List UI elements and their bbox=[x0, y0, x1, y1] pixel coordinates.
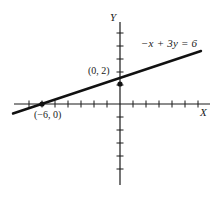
point-label-x-intercept: (−6, 0) bbox=[34, 110, 61, 120]
point-label-y-intercept: (0, 2) bbox=[88, 66, 110, 76]
coordinate-plane bbox=[0, 0, 220, 201]
y-axis-label: Y bbox=[110, 12, 116, 23]
x-axis-label: X bbox=[200, 107, 207, 118]
point-marker-x-intercept bbox=[39, 101, 44, 106]
point-marker-y-intercept bbox=[117, 81, 122, 86]
graph-figure: Y X −x + 3y = 6 (0, 2) (−6, 0) bbox=[0, 0, 220, 201]
equation-annotation: −x + 3y = 6 bbox=[141, 38, 197, 49]
